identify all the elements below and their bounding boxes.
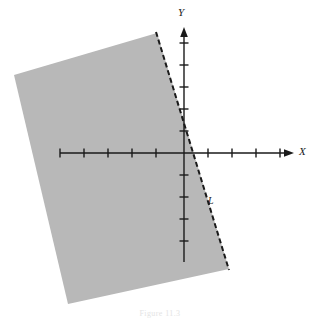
figure-container: Y X L Figure 11.3 [0, 0, 320, 319]
x-axis-arrowhead [284, 149, 294, 157]
line-label-L: L [208, 196, 214, 206]
y-axis-label: Y [178, 7, 184, 18]
coordinate-plane-figure [0, 0, 320, 319]
shaded-region [14, 33, 229, 304]
figure-caption: Figure 11.3 [0, 309, 320, 319]
y-axis-arrowhead [180, 27, 188, 37]
x-axis-label: X [299, 146, 306, 157]
